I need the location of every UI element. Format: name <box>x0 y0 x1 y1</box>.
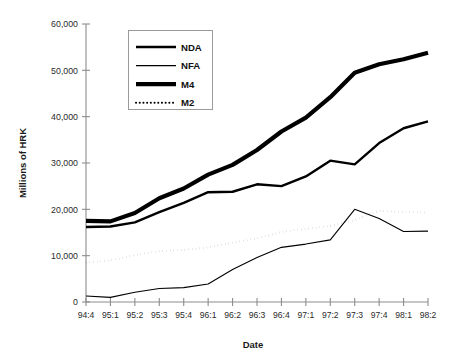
y-tick-label: 40,000 <box>51 112 78 122</box>
x-tick-label: 96:1 <box>200 310 217 320</box>
x-tick-label: 98:2 <box>420 310 437 320</box>
legend-label-m4: M4 <box>181 79 195 90</box>
y-axis-title: Millions of HRK <box>17 128 28 198</box>
x-tick-label: 96:4 <box>273 310 290 320</box>
x-tick-label: 97:2 <box>322 310 339 320</box>
x-tick-label: 95:2 <box>126 310 143 320</box>
x-tick-label: 97:1 <box>297 310 314 320</box>
chart-legend: NDANFAM4M2 <box>129 31 213 110</box>
legend-label-nda: NDA <box>181 42 202 53</box>
line-chart: 010,00020,00030,00040,00050,00060,000 94… <box>0 0 450 359</box>
y-tick-label: 60,000 <box>51 19 78 29</box>
series-line-m2 <box>86 211 428 263</box>
y-axis-tick-labels: 010,00020,00030,00040,00050,00060,000 <box>51 19 78 307</box>
x-tick-label: 95:4 <box>175 310 192 320</box>
x-tick-label: 96:3 <box>249 310 266 320</box>
x-tick-label: 97:4 <box>371 310 388 320</box>
x-axis-title: Date <box>243 339 264 350</box>
x-tick-label: 97:3 <box>346 310 363 320</box>
x-tick-label: 96:2 <box>224 310 241 320</box>
legend-label-m2: M2 <box>181 97 194 108</box>
x-axis-tick-labels: 94:495:195:295:395:496:196:296:396:497:1… <box>78 310 437 320</box>
y-tick-label: 50,000 <box>51 66 78 76</box>
chart-container: 010,00020,00030,00040,00050,00060,000 94… <box>0 0 450 359</box>
x-tick-label: 95:1 <box>102 310 119 320</box>
x-tick-label: 98:1 <box>395 310 412 320</box>
y-tick-label: 10,000 <box>51 251 78 261</box>
x-tick-label: 94:4 <box>78 310 95 320</box>
y-tick-label: 30,000 <box>51 158 78 168</box>
legend-label-nfa: NFA <box>181 60 200 71</box>
y-tick-label: 20,000 <box>51 205 78 215</box>
x-tick-label: 95:3 <box>151 310 168 320</box>
y-tick-label: 0 <box>73 297 78 307</box>
